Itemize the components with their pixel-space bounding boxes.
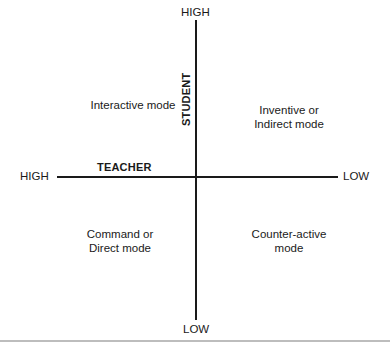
quadrant-bottom-left: Command or Direct mode bbox=[80, 227, 160, 255]
quadrant-bottom-right-line-2: mode bbox=[244, 241, 334, 255]
quadrant-bottom-left-line-2: Direct mode bbox=[80, 241, 160, 255]
teacher-axis-title: TEACHER bbox=[97, 161, 152, 173]
quadrant-top-right-line-1: Inventive or bbox=[244, 103, 334, 117]
quadrant-bottom-right: Counter-active mode bbox=[244, 227, 334, 255]
horizontal-axis-left-label: HIGH bbox=[20, 170, 49, 182]
quadrant-top-right-line-2: Indirect mode bbox=[244, 117, 334, 131]
quadrant-bottom-left-line-1: Command or bbox=[80, 227, 160, 241]
quadrant-top-left-line-1: Interactive mode bbox=[78, 98, 188, 112]
vertical-axis-bottom-label: LOW bbox=[183, 323, 209, 335]
horizontal-axis-right-label: LOW bbox=[343, 170, 369, 182]
horizontal-axis-line bbox=[57, 176, 338, 178]
quadrant-top-left: Interactive mode bbox=[78, 98, 188, 112]
vertical-axis-top-label: HIGH bbox=[181, 6, 210, 18]
vertical-axis-line bbox=[195, 20, 197, 320]
quadrant-bottom-right-line-1: Counter-active bbox=[244, 227, 334, 241]
bottom-divider bbox=[0, 340, 390, 342]
quadrant-top-right: Inventive or Indirect mode bbox=[244, 103, 334, 131]
